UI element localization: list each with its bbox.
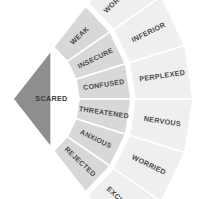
core-wedge-scared[interactable] xyxy=(13,50,51,148)
emotion-wheel-diagram: WORTHLESSINFERIORPERPLEXEDNERVOUSWORRIED… xyxy=(0,0,197,199)
core-wedge-group: SCARED xyxy=(13,50,68,148)
fan-svg: WORTHLESSINFERIORPERPLEXEDNERVOUSWORRIED… xyxy=(0,0,197,199)
